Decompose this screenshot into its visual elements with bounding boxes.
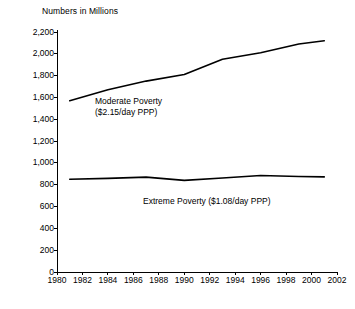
series-label-moderate-poverty-line1: Moderate Poverty	[95, 96, 162, 107]
series-line-extreme-poverty	[70, 175, 325, 180]
poverty-line-chart: Numbers in Millions 02004006008001,0001,…	[0, 0, 355, 309]
series-label-extreme-poverty-line1: Extreme Poverty ($1.08/day PPP)	[143, 196, 271, 207]
series-label-moderate-poverty-line2: ($2.15/day PPP)	[95, 107, 162, 118]
series-label-moderate-poverty: Moderate Poverty ($2.15/day PPP)	[95, 96, 162, 118]
series-label-extreme-poverty: Extreme Poverty ($1.08/day PPP)	[143, 196, 271, 207]
series-line-moderate-poverty	[70, 41, 325, 101]
axis-lines	[57, 30, 337, 272]
plot-area	[0, 0, 355, 309]
x-axis-tick-label: 2002	[317, 276, 355, 285]
